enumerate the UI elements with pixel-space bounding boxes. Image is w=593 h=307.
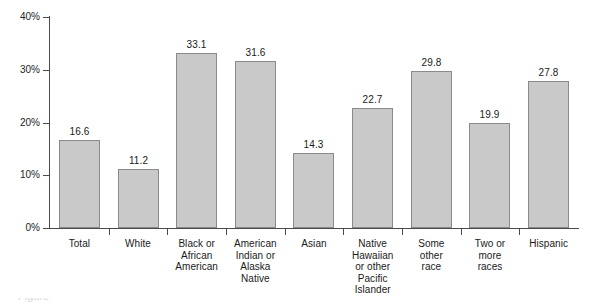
x-axis-category-label: NativeHawaiianor otherPacificIslander (339, 238, 406, 296)
y-axis-tick-label: 10% (0, 169, 40, 180)
y-axis-tick-label: 0% (0, 222, 40, 233)
y-axis-tick-label: 30% (0, 64, 40, 75)
caption-cutoff-text: Figure (18, 298, 538, 302)
x-axis-category-label: Black orAfricanAmerican (163, 238, 230, 273)
x-axis-category-label: Two ormoreraces (457, 238, 524, 273)
bar-chart: 40%30%20%10%0% 16.6Total11.2White33.1Bla… (0, 0, 593, 307)
bar (293, 153, 334, 228)
bar-value-label: 16.6 (45, 126, 114, 137)
y-axis-line (49, 16, 50, 229)
y-axis-tick-label: 20% (0, 117, 40, 128)
bar-value-label: 14.3 (279, 139, 348, 150)
y-axis-tick-label: 40% (0, 11, 40, 22)
bar-value-label: 19.9 (455, 109, 524, 120)
bar (469, 123, 510, 228)
x-axis-category-label: White (105, 238, 172, 250)
x-axis-category-label: Asian (281, 238, 348, 250)
bar-value-label: 22.7 (338, 94, 407, 105)
x-axis-category-label: AmericanIndian orAlaskaNative (222, 238, 289, 284)
bar (118, 169, 159, 228)
x-axis-tick (402, 229, 403, 235)
x-axis-category-label: Total (46, 238, 113, 250)
bar (235, 61, 276, 228)
bar (352, 108, 393, 228)
bar (59, 140, 100, 228)
x-axis-tick (519, 229, 520, 235)
x-axis-tick (343, 229, 344, 235)
x-axis-tick (285, 229, 286, 235)
x-axis-category-label: Hispanic (515, 238, 582, 250)
bar-value-label: 11.2 (104, 155, 173, 166)
caption-cutoff: Figure (18, 298, 538, 307)
bar-value-label: 27.8 (514, 67, 583, 78)
x-axis-line (49, 228, 579, 229)
bar (176, 53, 217, 228)
x-axis-category-label: Someotherrace (398, 238, 465, 273)
bar-value-label: 31.6 (221, 47, 290, 58)
x-axis-tick (226, 229, 227, 235)
bar (528, 81, 569, 228)
x-axis-tick (167, 229, 168, 235)
x-axis-tick (461, 229, 462, 235)
x-axis-tick (109, 229, 110, 235)
bar-value-label: 29.8 (397, 57, 466, 68)
bar (411, 71, 452, 228)
